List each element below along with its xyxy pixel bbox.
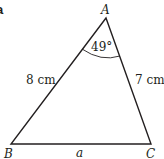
side-ac-label: 7 cm	[135, 73, 164, 87]
angle-a-label: 49°	[91, 40, 112, 54]
triangle-diagram: a 49° A B C 8 cm 7 cm a	[0, 0, 164, 159]
side-ab-label: 8 cm	[26, 73, 56, 87]
vertex-a-label: A	[100, 3, 110, 17]
vertex-b-label: B	[3, 147, 13, 159]
part-label: a	[0, 2, 4, 17]
vertex-c-label: C	[146, 147, 155, 159]
side-bc-label: a	[76, 146, 83, 159]
